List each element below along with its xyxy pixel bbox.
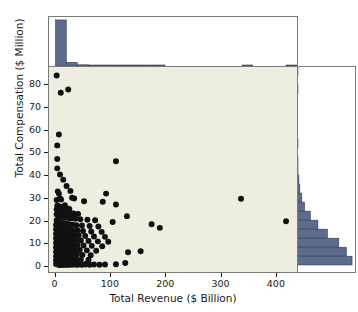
scatter-point [79, 223, 85, 229]
scatter-point [157, 225, 163, 231]
right-histogram-bar [297, 202, 305, 211]
right-histogram-bar [297, 211, 310, 220]
scatter-point [67, 188, 73, 194]
x-tick-mark [55, 273, 56, 277]
scatter-plot-panel [48, 66, 298, 273]
scatter-point [238, 196, 244, 202]
scatter-point [57, 171, 63, 177]
scatter-point [54, 73, 60, 79]
scatter-point [84, 217, 90, 223]
x-tick-label: 400 [267, 279, 285, 289]
top-histogram-bars [49, 17, 297, 66]
y-tick-mark [44, 266, 48, 267]
scatter-point [113, 158, 119, 164]
y-tick-mark [44, 198, 48, 199]
scatter-point [64, 183, 70, 189]
x-tick-mark [165, 273, 166, 277]
top-marginal-histogram-panel [48, 16, 298, 66]
scatter-point [77, 216, 83, 222]
y-tick-mark [44, 152, 48, 153]
scatter-point [56, 132, 62, 138]
y-tick-mark [44, 221, 48, 222]
scatter-point [110, 219, 116, 225]
scatter-point [58, 90, 64, 96]
scatter-point [54, 142, 60, 148]
scatter-point [79, 262, 85, 268]
right-histogram-bar [297, 229, 327, 238]
scatter-point [149, 221, 155, 227]
x-tick-label: 200 [156, 279, 174, 289]
right-marginal-histogram-panel [297, 66, 356, 273]
x-axis-title: Total Revenue ($ Billion) [48, 292, 298, 304]
y-tick-mark [44, 84, 48, 85]
scatter-point [283, 218, 289, 224]
y-axis-title: Total Compensation ($ Million) [13, 3, 25, 193]
scatter-point [113, 261, 119, 267]
scatter-point [125, 249, 131, 255]
scatter-point [81, 198, 87, 204]
scatter-point [87, 262, 93, 268]
scatter-point [105, 239, 111, 245]
scatter-point [71, 196, 77, 202]
y-tick-mark [44, 175, 48, 176]
scatter-point [138, 248, 144, 254]
scatter-point [82, 233, 88, 239]
scatter-point [84, 247, 90, 253]
scatter-point [54, 197, 60, 203]
scatter-points [49, 67, 297, 272]
scatter-point [113, 201, 119, 207]
scatter-point [96, 262, 102, 268]
scatter-point [102, 262, 108, 268]
top-histogram-bar [56, 20, 67, 66]
scatter-point [60, 177, 66, 183]
scatter-point [99, 243, 105, 249]
y-tick-label: 10 [14, 239, 41, 249]
scatter-point [81, 242, 87, 248]
scatter-point [73, 262, 79, 268]
scatter-point [122, 260, 128, 266]
x-tick-label: 0 [52, 279, 58, 289]
scatter-point [124, 213, 130, 219]
scatter-point [99, 229, 105, 235]
y-tick-mark [44, 243, 48, 244]
x-tick-mark [276, 273, 277, 277]
x-tick-mark [110, 273, 111, 277]
right-histogram-bars [297, 67, 355, 272]
scatter-point [95, 224, 101, 230]
y-tick-mark [44, 107, 48, 108]
x-tick-mark [221, 273, 222, 277]
scatter-with-marginal-histograms-figure: 010203040506070800100200300400 Total Rev… [0, 0, 358, 312]
scatter-point [56, 191, 62, 197]
scatter-point [95, 238, 101, 244]
scatter-point [92, 217, 98, 223]
scatter-point [93, 248, 99, 254]
y-tick-label: 20 [14, 216, 41, 226]
scatter-point [102, 234, 108, 240]
right-histogram-bar [297, 247, 346, 256]
scatter-point [87, 223, 93, 229]
scatter-point [65, 87, 71, 93]
y-tick-mark [44, 130, 48, 131]
scatter-point [73, 222, 79, 228]
y-tick-label: 0 [14, 261, 41, 271]
x-tick-label: 100 [101, 279, 119, 289]
scatter-point [54, 156, 60, 162]
right-histogram-bar [297, 256, 352, 265]
scatter-point [100, 199, 106, 205]
y-tick-label: 30 [14, 193, 41, 203]
scatter-point [103, 191, 109, 197]
scatter-point [89, 243, 95, 249]
right-histogram-bar [297, 220, 318, 229]
scatter-point [54, 165, 60, 171]
right-histogram-bar [297, 238, 339, 247]
scatter-point [91, 233, 97, 239]
x-tick-label: 300 [212, 279, 230, 289]
scatter-point [86, 238, 92, 244]
